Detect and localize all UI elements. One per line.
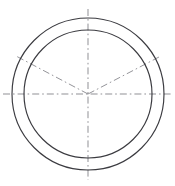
technical-drawing-canvas: Concentric circles with centerlines and … <box>0 0 175 186</box>
radial-line-upper-right <box>88 57 159 94</box>
concentric-circles-diagram <box>0 0 175 186</box>
